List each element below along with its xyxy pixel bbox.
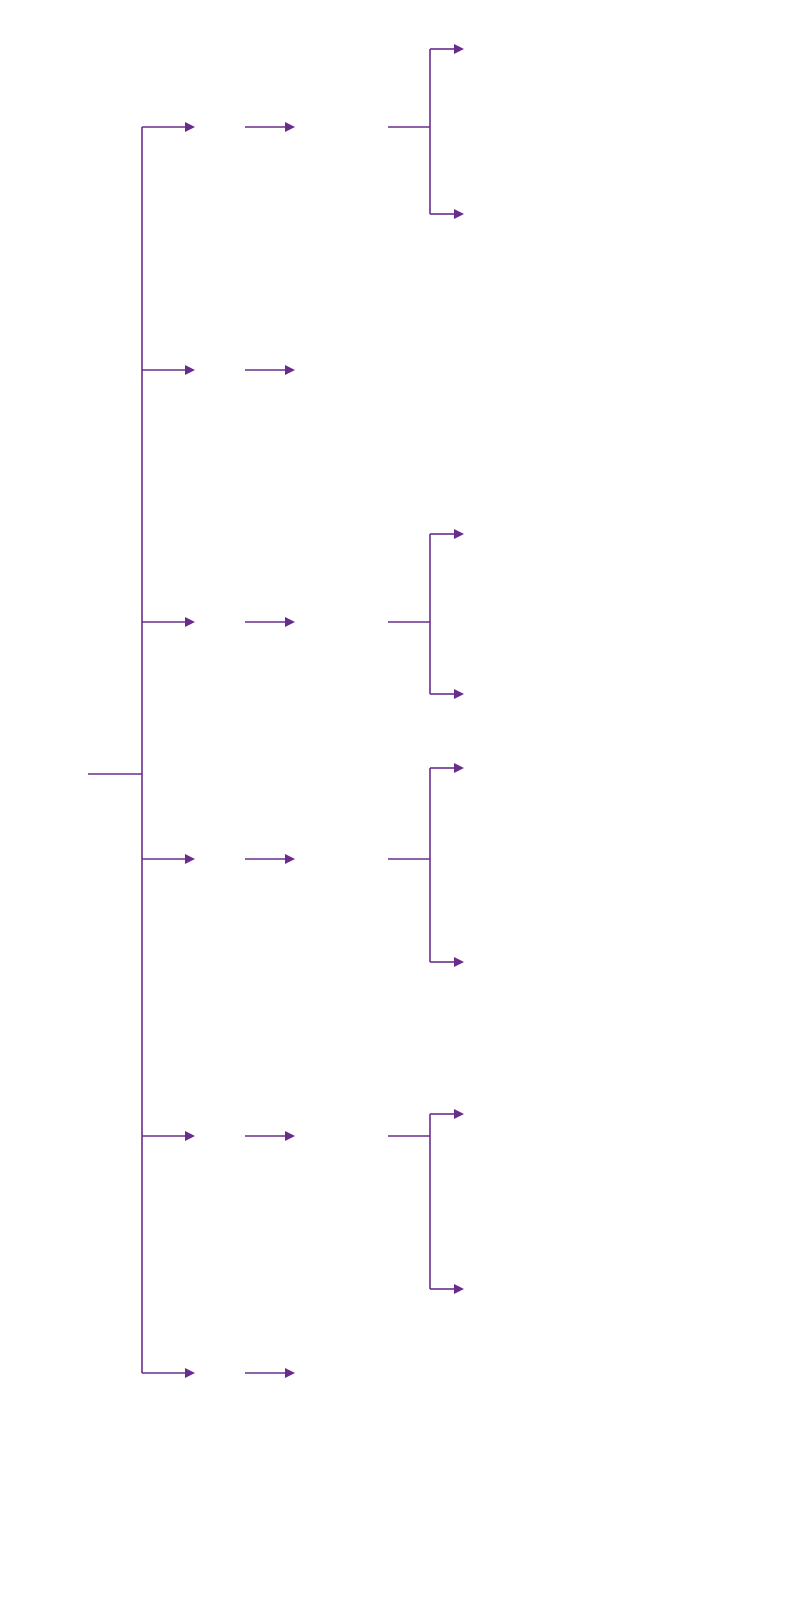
connector-lines bbox=[0, 0, 792, 1614]
flowchart-canvas bbox=[0, 0, 792, 1614]
